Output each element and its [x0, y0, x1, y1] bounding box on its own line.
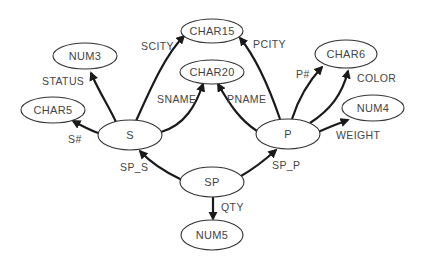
svg-text:NUM4: NUM4	[357, 102, 389, 114]
edge-label-pcity: PCITY	[253, 38, 286, 50]
node-char6: CHAR6	[315, 40, 377, 68]
edge-label-pname: PNAME	[227, 93, 266, 105]
svg-text:S: S	[126, 129, 134, 141]
svg-text:P: P	[284, 128, 292, 140]
node-num4: NUM4	[342, 95, 404, 121]
edge-label-sname: SNAME	[157, 93, 196, 105]
edge-label-pnum: P#	[296, 68, 310, 80]
edge-label-snum: S#	[68, 133, 82, 145]
node-sp: SP	[180, 167, 244, 197]
edge-color	[310, 71, 348, 123]
svg-text:CHAR6: CHAR6	[327, 48, 366, 60]
edge-label-color: COLOR	[357, 72, 396, 84]
svg-text:NUM3: NUM3	[69, 50, 101, 62]
edge-label-sp-s: SP_S	[120, 161, 148, 173]
edge-label-weight: WEIGHT	[336, 129, 381, 141]
edge-pname	[218, 84, 257, 131]
svg-text:CHAR5: CHAR5	[34, 104, 73, 116]
edge-snum	[73, 121, 98, 133]
node-char20: CHAR20	[180, 60, 244, 84]
node-p: P	[256, 119, 320, 149]
node-num3: NUM3	[53, 43, 117, 69]
edge-label-sp-p: SP_P	[272, 159, 300, 171]
edge-status	[91, 73, 116, 122]
svg-text:NUM5: NUM5	[196, 229, 228, 241]
node-s: S	[98, 120, 162, 150]
svg-text:CHAR20: CHAR20	[189, 66, 234, 78]
edge-sp-p	[241, 150, 276, 176]
edge-label-status: STATUS	[42, 75, 84, 87]
edge-sname	[161, 84, 203, 132]
svg-text:CHAR15: CHAR15	[189, 25, 234, 37]
edge-label-scity: SCITY	[141, 40, 174, 52]
svg-text:SP: SP	[204, 176, 219, 188]
node-num5: NUM5	[181, 220, 243, 250]
edge-pcity	[240, 38, 280, 119]
edge-label-qty: QTY	[221, 201, 244, 213]
node-char15: CHAR15	[181, 19, 243, 43]
diagram-canvas: SCITY PCITY STATUS SNAME PNAME P# COLOR …	[0, 0, 424, 260]
node-char5: CHAR5	[21, 97, 85, 123]
